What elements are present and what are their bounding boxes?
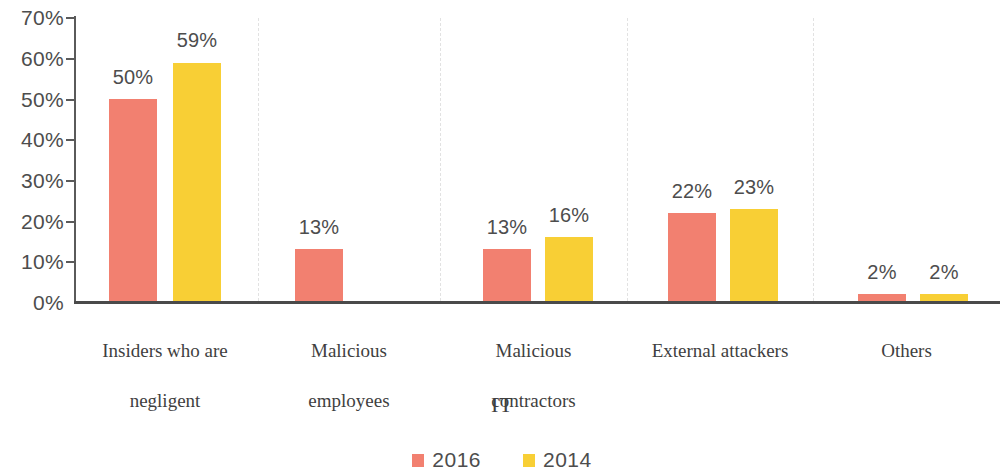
category-label-insiders-who-are-negligent: Insiders who are negligent bbox=[75, 313, 255, 438]
chart-legend: 2016 2014 bbox=[0, 448, 1004, 472]
legend-swatch-icon-2016 bbox=[412, 454, 424, 467]
plot-area bbox=[75, 18, 1000, 302]
bar-chart: 70% 60% 50% 40% 30% 20% 10% 0% 50% 59% 1… bbox=[0, 0, 1004, 475]
value-label-2014-malicious-contractors: 16% bbox=[545, 204, 593, 227]
category-label-line1: External attackers bbox=[627, 338, 813, 363]
y-axis-label-30: 30% bbox=[0, 169, 64, 193]
x-axis-title: IT bbox=[0, 392, 1004, 418]
value-label-2014-insiders: 59% bbox=[173, 29, 221, 52]
value-label-2014-external-attackers: 23% bbox=[730, 176, 778, 199]
category-label-line1: Others bbox=[813, 338, 1000, 363]
bar-2014-external-attackers[interactable] bbox=[730, 209, 778, 302]
bar-2016-insiders-who-are-negligent[interactable] bbox=[109, 99, 157, 302]
y-axis-label-10: 10% bbox=[0, 250, 64, 274]
value-label-2016-insiders: 50% bbox=[109, 66, 157, 89]
value-label-2016-others: 2% bbox=[858, 261, 906, 284]
category-label-malicious-contractors: Malicious contractors bbox=[440, 313, 627, 438]
y-axis-label-60: 60% bbox=[0, 47, 64, 71]
bar-2016-external-attackers[interactable] bbox=[668, 213, 716, 302]
category-label-external-attackers: External attackers bbox=[627, 313, 813, 388]
bar-2014-insiders-who-are-negligent[interactable] bbox=[173, 63, 221, 302]
legend-item-2014[interactable]: 2014 bbox=[523, 448, 592, 472]
category-label-others: Others bbox=[813, 313, 1000, 388]
bar-2016-malicious-contractors[interactable] bbox=[483, 249, 531, 302]
category-label-line1: Malicious bbox=[258, 338, 440, 363]
y-axis-label-0: 0% bbox=[0, 291, 64, 315]
category-label-malicious-employees: Malicious employees bbox=[258, 313, 440, 438]
legend-label-2014: 2014 bbox=[543, 448, 592, 472]
bar-2014-malicious-contractors[interactable] bbox=[545, 237, 593, 302]
y-axis-label-20: 20% bbox=[0, 210, 64, 234]
bar-2016-malicious-employees[interactable] bbox=[295, 249, 343, 302]
category-label-line1: Malicious bbox=[440, 338, 627, 363]
value-label-2016-external-attackers: 22% bbox=[668, 180, 716, 203]
y-axis-label-50: 50% bbox=[0, 88, 64, 112]
value-label-2014-others: 2% bbox=[920, 261, 968, 284]
category-label-line1: Insiders who are bbox=[75, 338, 255, 363]
x-axis-line bbox=[74, 301, 1000, 304]
value-label-2016-malicious-contractors: 13% bbox=[483, 216, 531, 239]
y-axis-label-70: 70% bbox=[0, 6, 64, 30]
legend-label-2016: 2016 bbox=[432, 448, 481, 472]
legend-item-2016[interactable]: 2016 bbox=[412, 448, 481, 472]
value-label-2016-malicious-employees: 13% bbox=[295, 216, 343, 239]
legend-swatch-icon-2014 bbox=[523, 454, 535, 467]
y-axis-label-40: 40% bbox=[0, 128, 64, 152]
